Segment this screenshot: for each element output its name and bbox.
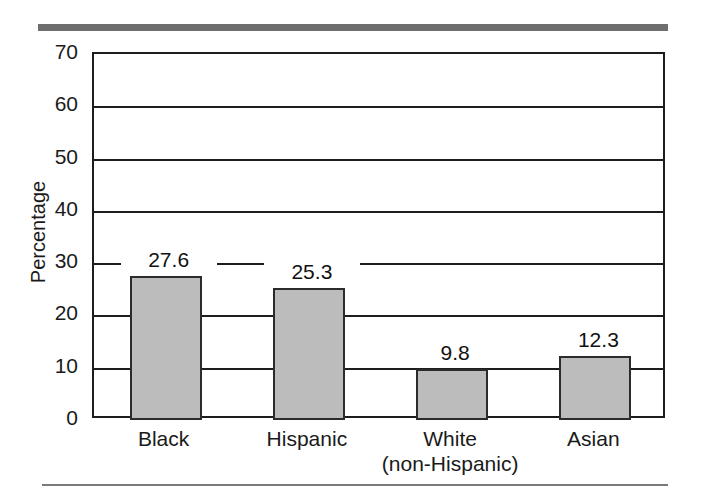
x-tick-label-main: White	[423, 427, 477, 450]
figure-container: Percentage 706050403020100 27.625.39.812…	[0, 0, 706, 501]
x-tick-label-main: Asian	[567, 427, 620, 450]
top-divider-rule	[38, 24, 668, 31]
y-tick-label-50: 50	[0, 146, 86, 167]
bar-value-label-black: 27.6	[121, 249, 217, 270]
y-tick-label-10: 10	[0, 355, 86, 376]
x-tick-label-asian: Asian	[503, 426, 683, 451]
y-tick-label-20: 20	[0, 302, 86, 323]
bottom-divider-rule	[42, 484, 668, 486]
y-tick-label-0: 0	[0, 407, 86, 428]
gridline-40	[94, 211, 663, 213]
gridline-50	[94, 159, 663, 161]
bar-value-label-asian: 12.3	[550, 329, 646, 350]
bar-black	[130, 276, 202, 420]
bar-value-label-hispanic: 25.3	[264, 261, 360, 282]
y-tick-label-40: 40	[0, 198, 86, 219]
y-tick-label-70: 70	[0, 41, 86, 62]
y-tick-label-30: 30	[0, 250, 86, 271]
bar-hispanic	[273, 288, 345, 420]
gridline-60	[94, 106, 663, 108]
bar-asian	[559, 356, 631, 420]
plot-area: 27.625.39.812.3	[92, 52, 665, 418]
x-tick-label-main: Black	[138, 427, 189, 450]
y-tick-label-60: 60	[0, 93, 86, 114]
x-tick-label-main: Hispanic	[267, 427, 348, 450]
bar-white	[416, 369, 488, 420]
x-tick-label-sub: (non-Hispanic)	[360, 451, 540, 477]
bar-value-label-white: 9.8	[407, 342, 503, 363]
